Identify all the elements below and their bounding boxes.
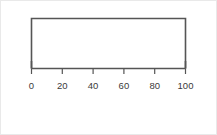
x-axis-tick-label-0: 0 bbox=[29, 80, 34, 91]
x-axis-tick-label-80: 80 bbox=[149, 80, 160, 91]
x-axis-tick-label-60: 60 bbox=[119, 80, 130, 91]
x-axis-tick-label-20: 20 bbox=[57, 80, 68, 91]
chart-screenshot: 0 20 40 60 80 100 bbox=[0, 0, 217, 135]
x-axis-tick-label-100: 100 bbox=[178, 80, 194, 91]
plot-svg: 0 20 40 60 80 100 bbox=[1, 1, 217, 135]
plot-area-background bbox=[32, 19, 186, 69]
x-axis-tick-label-40: 40 bbox=[88, 80, 99, 91]
